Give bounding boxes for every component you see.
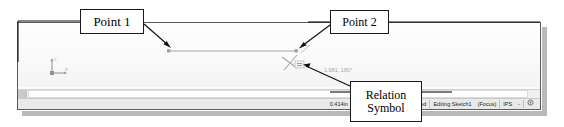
- dimension-leader: [301, 45, 310, 53]
- callout-relation-label-line2: Symbol: [367, 102, 404, 115]
- callout-point1-label: Point 1: [93, 15, 130, 29]
- status-units[interactable]: IPS: [500, 99, 515, 109]
- cad-application-window: Y X: [17, 22, 541, 110]
- window-shadow-right: [542, 27, 547, 116]
- callout-point2: Point 2: [330, 10, 389, 34]
- gear-icon[interactable]: [524, 99, 540, 109]
- scrollbar-thumb[interactable]: [28, 90, 528, 98]
- sketch-endpoint-left[interactable]: [167, 49, 170, 52]
- status-units-dropdown[interactable]: -: [515, 99, 523, 109]
- callout-point2-label: Point 2: [342, 16, 376, 29]
- sketch-endpoint-right[interactable]: [295, 49, 298, 52]
- status-bar: 0.414in -2.76in 0in Under Defined Editin…: [18, 98, 540, 109]
- status-editing-state[interactable]: Editing Sketch1: [430, 99, 474, 109]
- horizontal-scrollbar[interactable]: [18, 89, 540, 98]
- screenshot-root: Y X: [0, 0, 564, 127]
- relation-symbol-glyph[interactable]: [282, 55, 304, 70]
- scrollbar-left-button[interactable]: [18, 90, 27, 98]
- window-shadow-bottom: [22, 111, 546, 116]
- callout-relation-label-line1: Relation: [366, 89, 407, 102]
- status-focus-text: (Focus): [475, 99, 500, 109]
- callout-relation-symbol: Relation Symbol: [350, 81, 422, 122]
- status-coordinate-x: 0.414in: [327, 99, 351, 109]
- callout-point1: Point 1: [80, 9, 144, 34]
- dimension-annotation-text: 1.981, 180°: [324, 67, 352, 73]
